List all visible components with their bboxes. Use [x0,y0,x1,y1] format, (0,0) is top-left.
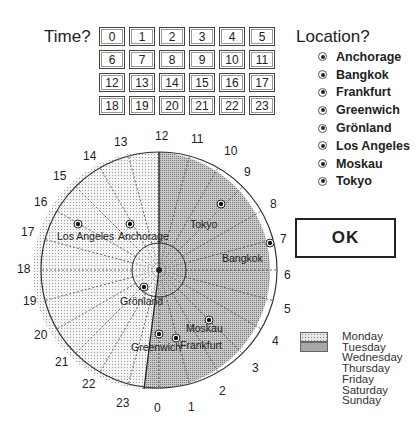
city-label: Greenwich [131,341,181,353]
hour-label: 2 [219,384,226,398]
city-label: Bangkok [222,252,264,264]
hour-label: 20 [34,328,48,342]
legend-day-sunday: Sunday [342,395,403,406]
hour-label: 6 [284,268,291,282]
hour-label: 4 [272,334,279,348]
hour-label: 18 [17,262,31,276]
hour-label: 22 [82,377,96,391]
city-label: Anchorage [118,230,169,242]
city-label: Los Angeles [57,230,114,242]
dial-center-icon [156,267,162,273]
hour-label: 9 [244,165,251,179]
hour-label: 8 [270,197,277,211]
hour-label: 12 [155,129,169,143]
hour-label: 23 [116,396,130,410]
hour-label: 11 [191,132,204,146]
city-label: Tokyo [190,218,218,230]
hour-label: 14 [83,149,97,163]
city-label: Grönland [120,295,163,307]
hour-label: 10 [224,144,238,158]
hour-label: 17 [21,225,35,239]
hour-label: 21 [55,355,69,369]
hour-label: 15 [53,169,67,183]
hour-label: 3 [252,361,259,375]
legend-day-friday: Friday [342,374,403,385]
hour-label: 0 [154,401,161,415]
hour-label: 5 [284,302,291,316]
legend-swatch-monday [300,332,328,342]
hour-label: 13 [114,135,128,149]
hour-label: 19 [23,294,37,308]
legend-swatch-tuesday [300,342,328,352]
city-label: Frankfurt [180,339,222,351]
hour-label: 7 [280,232,287,246]
hour-label: 16 [34,195,48,209]
city-label: Moskau [186,322,223,334]
legend-day-list: MondayTuesdayWednesdayThursdayFridaySatu… [342,331,403,406]
hour-label: 1 [188,400,195,414]
